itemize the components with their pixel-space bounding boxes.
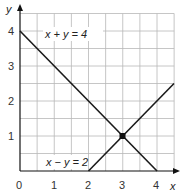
tick-x-3: 3 — [119, 179, 125, 191]
tick-x-4: 4 — [153, 179, 159, 191]
tick-y-1: 1 — [8, 130, 14, 142]
tick-y-3: 3 — [8, 60, 14, 72]
chart: y x 0 1 2 3 4 1 2 3 4 x + y = 4 x − y = … — [0, 0, 180, 192]
tick-y-2: 2 — [8, 95, 14, 107]
intersection-point — [120, 133, 126, 139]
equation-label-1: x + y = 4 — [44, 28, 87, 40]
x-axis-label: x — [169, 180, 176, 192]
y-axis-arrow-icon — [17, 4, 23, 11]
y-axis-label: y — [5, 3, 13, 15]
line-x-minus-y-eq-2 — [89, 84, 175, 172]
tick-y-4: 4 — [8, 25, 14, 37]
tick-x-1: 1 — [51, 179, 57, 191]
tick-x-2: 2 — [85, 179, 91, 191]
tick-x-0: 0 — [16, 179, 22, 191]
x-axis-arrow-icon — [173, 168, 180, 174]
equation-label-2: x − y = 2 — [45, 156, 88, 168]
